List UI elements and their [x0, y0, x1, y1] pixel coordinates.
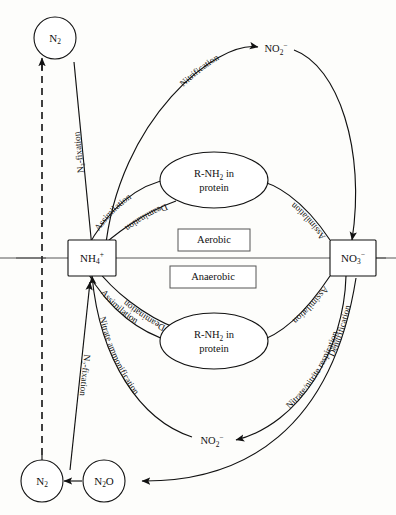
- edge-label-nitrate-ammonification: Nitrate ammonification: [98, 316, 142, 397]
- edge-label-assimilation-top-right: Assimilation: [289, 201, 328, 242]
- edge-assimilation-bottom-right: [256, 276, 330, 342]
- edge-label-assimilation-bottom-right: Assimilation: [291, 285, 331, 327]
- diagram-canvas: N2 NH4+ NO3− NO2− NO2− R-NH2 in protein …: [0, 0, 396, 515]
- edge-label-n2-fixation-top: N₂-fixation: [71, 131, 85, 174]
- node-protein-anaerobic-line2: protein: [199, 343, 229, 354]
- edge-denitrification: [142, 278, 356, 481]
- node-no2-top-label: NO2−: [264, 41, 287, 57]
- edge-nitrification: [105, 47, 258, 252]
- edge-label-deamination-top-left: Deamination: [123, 202, 169, 234]
- zone-label-aerobic: Aerobic: [197, 234, 231, 245]
- node-protein-anaerobic: [160, 313, 268, 369]
- node-protein-aerobic: [160, 152, 268, 208]
- edge-label-nitrification: Nitrification: [178, 52, 221, 88]
- node-protein-aerobic-line2: protein: [199, 182, 229, 193]
- nitrogen-cycle-diagram: N2 NH4+ NO3− NO2− NO2− R-NH2 in protein …: [0, 0, 396, 515]
- edge-label-n2-fixation-bottom: N₂-fixation: [78, 354, 92, 397]
- zone-label-anaerobic: Anaerobic: [191, 271, 235, 282]
- node-no2-bottom-label: NO2−: [200, 433, 223, 449]
